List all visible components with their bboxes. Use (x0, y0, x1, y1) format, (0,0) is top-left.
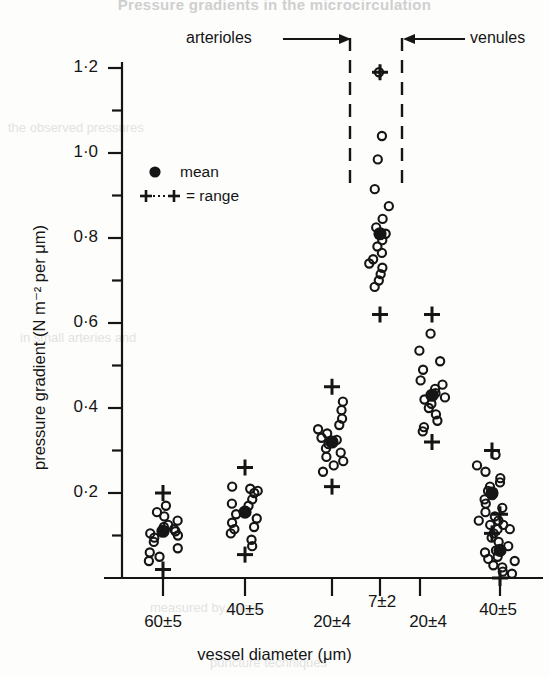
data-point (415, 347, 423, 355)
range-marker (155, 562, 171, 578)
data-point (337, 449, 345, 457)
data-point (339, 398, 347, 406)
data-point (160, 512, 168, 520)
axis-lines (104, 62, 543, 578)
data-point (481, 468, 489, 476)
range-marker (237, 460, 253, 476)
data-point (174, 517, 182, 525)
x-tick-label: 60±5 (123, 612, 203, 632)
x-tick-label: 20±4 (292, 612, 372, 632)
data-point (473, 461, 481, 469)
x-tick-label: 7±2 (342, 592, 422, 612)
data-point (145, 557, 153, 565)
data-point (322, 453, 330, 461)
range-marker (324, 479, 340, 495)
y-tick-label: 0·8 (52, 227, 98, 247)
range-marker (492, 570, 508, 586)
data-point (378, 249, 386, 257)
range-marker (424, 434, 440, 450)
data-point (506, 525, 514, 533)
data-point (508, 570, 516, 578)
arterioles-arrow (283, 34, 351, 44)
data-point (330, 461, 338, 469)
mean-marker (238, 506, 251, 519)
range-marker (324, 379, 340, 395)
y-tick-label: 1·0 (52, 142, 98, 162)
data-point (436, 357, 444, 365)
data-point (511, 557, 519, 565)
data-point (417, 376, 425, 384)
data-point (486, 521, 494, 529)
y-tick-label: 1·2 (52, 57, 98, 77)
mean-marker (156, 525, 169, 538)
range-marker (424, 307, 440, 323)
data-point (155, 553, 163, 561)
x-tick-label: 40±5 (458, 600, 538, 620)
mean-marker (485, 486, 498, 499)
venules-arrow (403, 34, 465, 44)
data-point (475, 517, 483, 525)
data-point (250, 523, 258, 531)
legend-mean-label: mean (180, 163, 219, 181)
data-point (419, 366, 427, 374)
data-point (378, 132, 386, 140)
legend-range-label: = range (186, 187, 239, 205)
data-point (314, 425, 322, 433)
range-marker (372, 64, 388, 80)
mean-marker (325, 435, 338, 448)
data-point (228, 500, 236, 508)
data-point (441, 393, 449, 401)
y-axis-ticks (108, 68, 122, 536)
figure-root: Pressure gradients in the microcirculati… (0, 0, 549, 677)
data-point (371, 185, 379, 193)
range-marker (372, 307, 388, 323)
data-point (489, 561, 497, 569)
data-point (426, 330, 434, 338)
data-point (337, 406, 345, 414)
range-marker (484, 443, 500, 459)
data-points-layer (145, 64, 519, 586)
data-point (319, 468, 327, 476)
data-point (385, 202, 393, 210)
data-point (481, 508, 489, 516)
legend-marks (140, 166, 180, 202)
plot-canvas (0, 0, 549, 677)
x-tick-label: 40±5 (205, 600, 285, 620)
mean-marker (493, 544, 506, 557)
x-tick-label: 20±4 (388, 612, 468, 632)
data-point (379, 215, 387, 223)
data-point (162, 502, 170, 510)
mean-marker (425, 389, 438, 402)
mean-marker (373, 227, 386, 240)
y-tick-label: 0·4 (52, 397, 98, 417)
range-marker (155, 485, 171, 501)
data-point (228, 483, 236, 491)
data-point (339, 457, 347, 465)
y-tick-label: 0·6 (52, 312, 98, 332)
y-tick-label: 0·2 (52, 482, 98, 502)
annotation-venules: venules (470, 29, 525, 47)
data-point (371, 283, 379, 291)
data-point (146, 548, 154, 556)
annotation-arterioles: arterioles (186, 29, 252, 47)
x-axis-ticks (163, 578, 500, 596)
data-point (374, 155, 382, 163)
data-point (174, 544, 182, 552)
data-point (253, 514, 261, 522)
